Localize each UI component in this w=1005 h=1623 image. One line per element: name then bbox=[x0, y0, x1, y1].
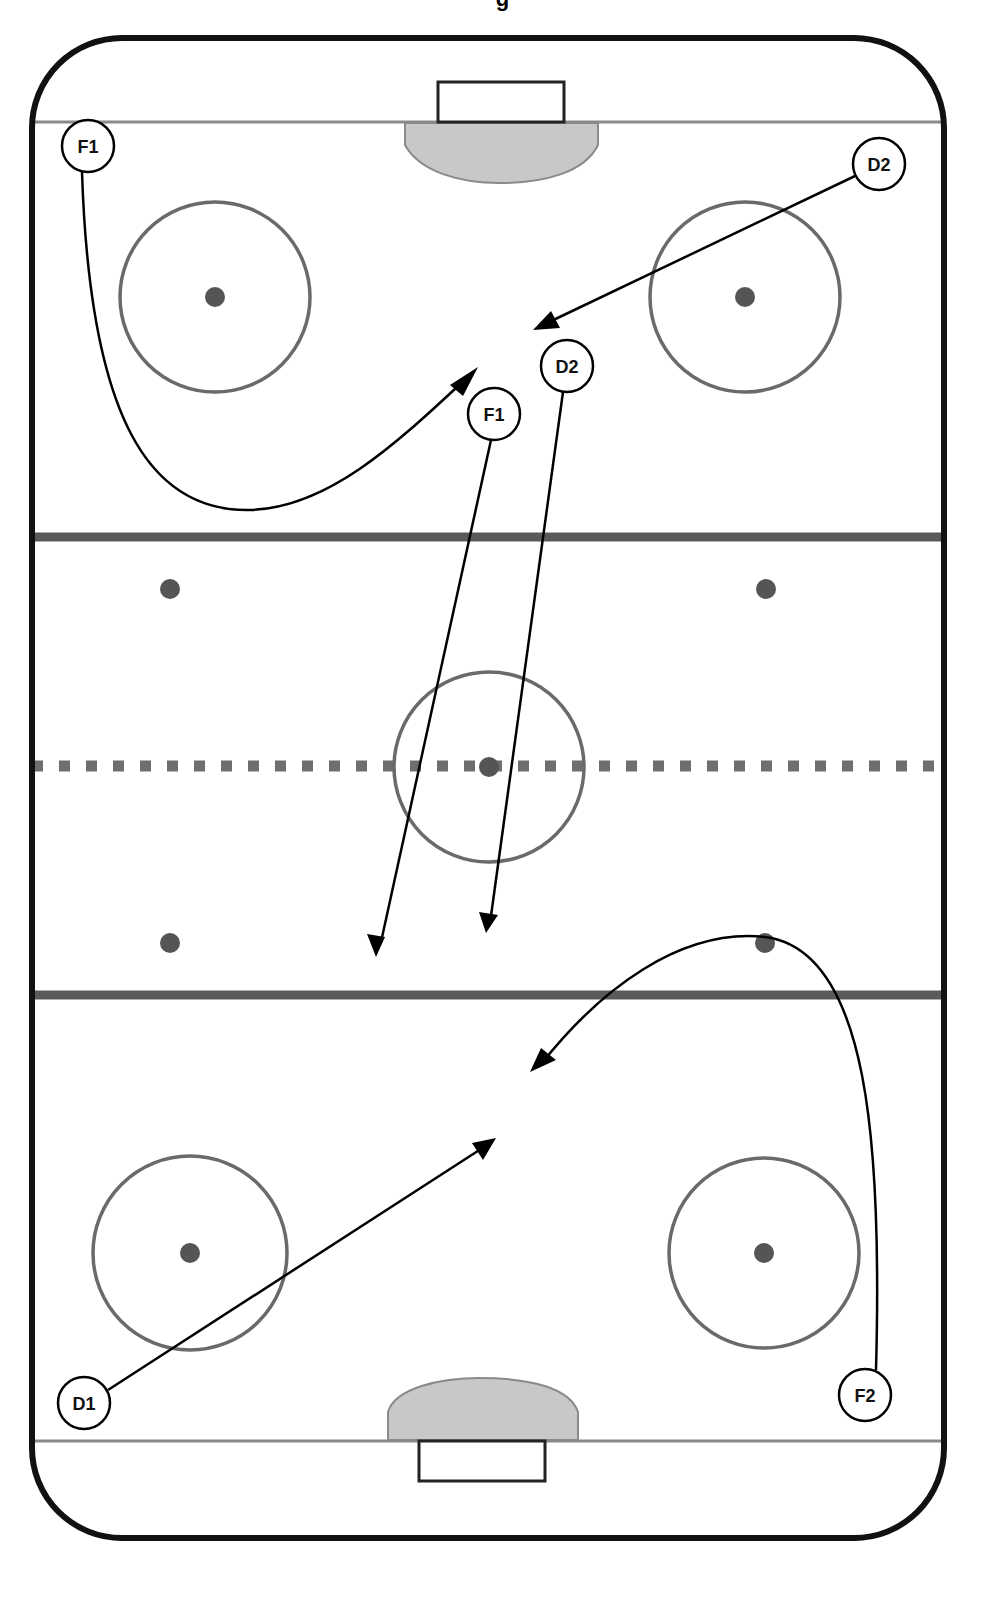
faceoff-dot bbox=[754, 1243, 774, 1263]
player-label: F1 bbox=[483, 405, 504, 425]
faceoff-dot bbox=[479, 757, 499, 777]
f1-straight-arrowhead bbox=[367, 934, 385, 957]
faceoff-dot bbox=[735, 287, 755, 307]
bottom-crease bbox=[388, 1378, 578, 1440]
player-marker-d2: D2 bbox=[853, 138, 905, 190]
faceoff-dot bbox=[160, 579, 180, 599]
d2-diagonal-path bbox=[545, 176, 855, 324]
player-movement-paths bbox=[82, 172, 877, 1390]
player-marker-d2: D2 bbox=[541, 340, 593, 392]
d2-diagonal-arrowhead bbox=[533, 311, 560, 330]
faceoff-dot bbox=[160, 933, 180, 953]
player-label: D2 bbox=[555, 357, 578, 377]
d1-diagonal-path bbox=[108, 1147, 484, 1390]
f2-curve-path bbox=[542, 936, 877, 1370]
d2-straight-arrowhead bbox=[479, 912, 498, 933]
player-marker-f1: F1 bbox=[468, 388, 520, 440]
bottom-net bbox=[419, 1441, 545, 1481]
player-label: D1 bbox=[72, 1394, 95, 1414]
rink-markings bbox=[32, 38, 944, 1538]
player-label: D2 bbox=[867, 155, 890, 175]
player-marker-f2: F2 bbox=[839, 1369, 891, 1421]
faceoff-dot bbox=[205, 287, 225, 307]
player-marker-d1: D1 bbox=[58, 1377, 110, 1429]
player-label: F2 bbox=[854, 1386, 875, 1406]
player-marker-f1: F1 bbox=[62, 120, 114, 172]
top-net bbox=[438, 82, 564, 122]
top-crease bbox=[405, 123, 598, 183]
rink-boards bbox=[32, 38, 944, 1538]
hockey-rink-diagram: F1D2D2F1D1F2 bbox=[0, 0, 1005, 1623]
player-markers: F1D2D2F1D1F2 bbox=[58, 120, 905, 1429]
f1-straight-path bbox=[381, 440, 491, 942]
faceoff-dot bbox=[756, 579, 776, 599]
faceoff-dot bbox=[180, 1243, 200, 1263]
f1-curve-arrowhead bbox=[450, 367, 478, 396]
d1-diagonal-arrowhead bbox=[472, 1138, 496, 1160]
player-label: F1 bbox=[77, 137, 98, 157]
